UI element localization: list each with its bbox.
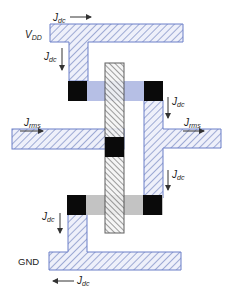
jrms-label-out: Jrms [183,117,201,129]
contact-vdd [68,81,87,101]
output-wire [144,100,221,198]
vdd-label: VDD [25,29,42,41]
jdc-label-top: Jdc [52,12,66,24]
contact-gnd [67,195,86,215]
jdc-label-vdd-stem: Jdc [43,51,57,63]
gnd-label: GND [18,256,39,267]
contact-gate-input [105,137,124,157]
jdc-label-bottom: Jdc [76,275,90,287]
jdc-label-gnd-stem: Jdc [41,211,55,223]
jrms-label-in: Jrms [23,117,41,129]
inverter-layout-diagram: Jdc VDD Jdc Jdc Jrms Jrms Jdc Jdc GND Jd… [0,0,231,294]
contact-nmos-out [143,195,162,215]
jdc-label-out-upper: Jdc [171,96,185,108]
contact-pmos-out [144,81,163,101]
jdc-label-out-lower: Jdc [171,169,185,181]
